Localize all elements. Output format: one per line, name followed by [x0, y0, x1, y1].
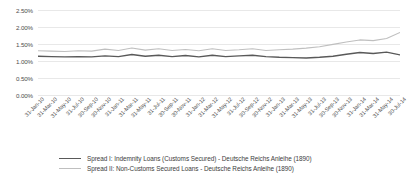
x-axis-labels: 31-Jan-1031-Mar-1031-May-1031-Jul-1030-S…	[38, 96, 400, 138]
legend-label-spread-1: Spread I: Indemnity Loans (Customs Secur…	[87, 155, 312, 162]
chart-legend: Spread I: Indemnity Loans (Customs Secur…	[0, 155, 404, 172]
legend-label-spread-2: Spread II: Non-Customs Secured Loans - D…	[87, 165, 294, 172]
y-tick-label: 1.50%	[16, 41, 33, 48]
y-tick-label: 0.00%	[16, 92, 33, 99]
legend-line-swatch-spread-1	[59, 158, 81, 159]
y-tick-label: 1.00%	[16, 58, 33, 65]
y-tick-label: 0.50%	[16, 75, 33, 82]
plot-area	[38, 10, 400, 95]
series-line-1	[38, 52, 400, 58]
series-layer	[38, 10, 400, 95]
legend-item-spread-2: Spread II: Non-Customs Secured Loans - D…	[59, 165, 345, 172]
legend-line-swatch-spread-2	[59, 168, 81, 169]
series-line-2	[38, 32, 400, 51]
legend-item-spread-1: Spread I: Indemnity Loans (Customs Secur…	[59, 155, 345, 162]
y-axis-labels: 0.00%0.50%1.00%1.50%2.00%2.50%	[0, 10, 36, 95]
y-tick-label: 2.00%	[16, 24, 33, 31]
y-tick-label: 2.50%	[16, 7, 33, 14]
